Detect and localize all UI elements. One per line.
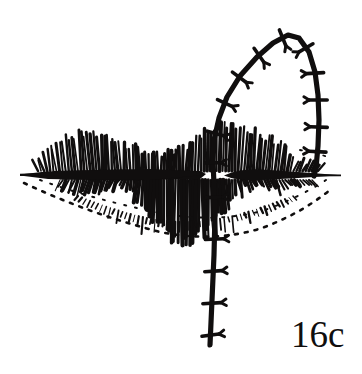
upper-hatch-stroke xyxy=(170,151,171,171)
cross-stitch-tip xyxy=(232,106,238,107)
lower-hatch-stroke-outer xyxy=(162,221,163,227)
upper-hatch-stroke xyxy=(173,155,174,171)
cross-stitch-tip xyxy=(246,82,252,83)
lower-hatch-stroke-outer xyxy=(150,219,151,224)
lower-hatch-stroke xyxy=(235,180,236,195)
upper-hatch-stroke xyxy=(176,150,177,171)
cross-stitch xyxy=(205,271,222,272)
lower-hatch-stroke xyxy=(229,180,230,200)
lower-hatch-stroke xyxy=(126,180,128,191)
upper-hatch-stroke xyxy=(189,143,191,171)
upper-hatch-stroke xyxy=(183,145,184,171)
cross-stitch xyxy=(202,334,219,336)
lower-hatch-stroke-outer xyxy=(220,219,221,230)
cross-stitch xyxy=(205,239,223,240)
lower-hatch-stroke-outer xyxy=(158,220,159,226)
lower-hatch-stroke-outer xyxy=(146,218,147,224)
lower-hatch-stroke xyxy=(172,180,173,243)
figure-container: 16c xyxy=(0,0,362,374)
upper-hatch-stroke xyxy=(145,152,146,171)
upper-hatch-stroke xyxy=(161,157,162,171)
upper-hatch-stroke xyxy=(192,143,193,171)
lower-hatch-stroke xyxy=(152,180,154,222)
lower-hatch-stroke-outer xyxy=(137,216,139,225)
upper-hatch-stroke xyxy=(260,139,262,171)
upper-hatch-stroke xyxy=(195,136,196,171)
upper-hatch-stroke xyxy=(129,149,131,171)
upper-hatch-stroke xyxy=(207,132,208,171)
upper-hatch-stroke xyxy=(157,152,158,171)
lower-hatch-stroke xyxy=(232,180,233,198)
upper-hatch-stroke xyxy=(235,129,236,171)
upper-hatch-stroke xyxy=(133,145,134,171)
upper-hatch-stroke xyxy=(167,150,168,171)
cross-stitch xyxy=(307,73,324,74)
upper-hatch-stroke xyxy=(232,124,233,171)
lower-hatch-stroke xyxy=(244,180,246,185)
lower-hatch-stroke-outer xyxy=(142,217,143,234)
cross-stitch xyxy=(203,303,221,304)
upper-hatch-stroke xyxy=(137,147,139,171)
lower-hatch-stroke xyxy=(130,180,131,189)
upper-hatch-stroke xyxy=(250,135,252,171)
upper-hatch-stroke xyxy=(179,147,180,171)
figure-caption: 16c xyxy=(291,316,344,353)
upper-hatch-stroke xyxy=(105,136,106,171)
lower-hatch-stroke xyxy=(142,180,143,205)
upper-hatch-stroke xyxy=(154,153,155,171)
lower-hatch-stroke xyxy=(241,180,242,197)
upper-hatch-stroke xyxy=(102,135,103,171)
cross-stitch xyxy=(309,151,326,152)
lower-hatch-stroke-outer xyxy=(167,221,168,230)
cross-stitch xyxy=(310,127,327,128)
upper-hatch-stroke xyxy=(253,128,255,171)
cross-stitch xyxy=(206,197,223,198)
cross-stitch-tip xyxy=(224,134,230,136)
upper-hatch-stroke xyxy=(198,136,200,171)
